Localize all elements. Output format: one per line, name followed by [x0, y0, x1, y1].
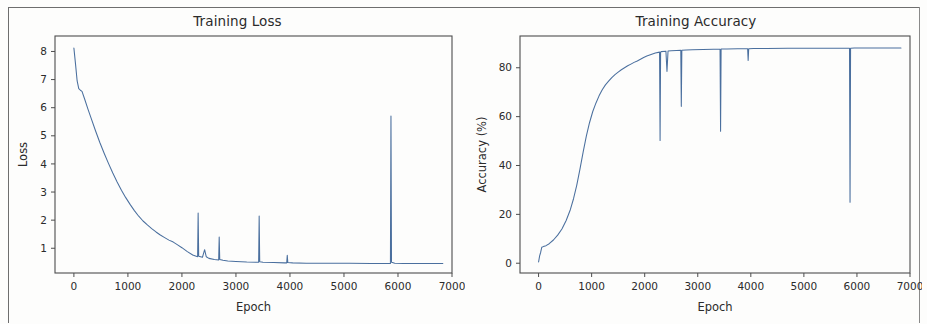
plot-frame	[520, 36, 910, 273]
training-loss-panel: Training Loss 01000200030004000500060007…	[10, 0, 465, 324]
x-tick-label: 6000	[385, 280, 412, 292]
data-line-loss	[74, 48, 443, 263]
training-accuracy-panel: Training Accuracy 0100020003000400050006…	[470, 0, 922, 324]
y-tick-label: 7	[40, 73, 47, 85]
x-tick-label: 3000	[223, 280, 250, 292]
y-tick-label: 40	[499, 159, 512, 171]
x-tick-label: 4000	[737, 280, 764, 292]
x-tick-label: 6000	[844, 280, 871, 292]
x-tick-label: 5000	[791, 280, 818, 292]
y-tick-label: 6	[40, 101, 47, 113]
x-tick-label: 5000	[331, 280, 358, 292]
y-tick-label: 4	[40, 158, 47, 170]
y-tick-label: 5	[40, 129, 47, 141]
x-tick-label: 7000	[897, 280, 922, 292]
y-tick-label: 0	[505, 257, 512, 269]
x-axis-label: Epoch	[697, 300, 732, 314]
page-border-left	[8, 7, 9, 323]
data-line-accuracy	[539, 48, 901, 262]
x-tick-label: 1000	[115, 280, 142, 292]
x-tick-label: 0	[535, 280, 542, 292]
y-axis-label: Accuracy (%)	[475, 116, 489, 192]
training-loss-plot: 0100020003000400050006000700012345678Epo…	[10, 0, 465, 324]
x-axis-label: Epoch	[236, 300, 271, 314]
x-tick-label: 4000	[277, 280, 304, 292]
x-tick-label: 3000	[684, 280, 711, 292]
y-axis-label: Loss	[16, 142, 30, 167]
y-tick-label: 20	[499, 208, 512, 220]
x-tick-label: 1000	[578, 280, 605, 292]
y-tick-label: 8	[40, 45, 47, 57]
y-tick-label: 60	[499, 110, 512, 122]
y-tick-label: 80	[499, 61, 512, 73]
plot-frame	[55, 36, 452, 273]
y-tick-label: 1	[40, 242, 47, 254]
training-accuracy-plot: 01000200030004000500060007000020406080Ep…	[470, 0, 922, 324]
x-tick-label: 2000	[169, 280, 196, 292]
x-tick-label: 2000	[631, 280, 658, 292]
y-tick-label: 2	[40, 214, 47, 226]
x-tick-label: 7000	[439, 280, 465, 292]
x-tick-label: 0	[71, 280, 78, 292]
scanned-page: Training Loss 01000200030004000500060007…	[0, 0, 927, 324]
y-tick-label: 3	[40, 186, 47, 198]
